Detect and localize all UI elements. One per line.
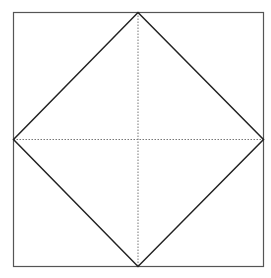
- diagram-canvas: [0, 0, 271, 278]
